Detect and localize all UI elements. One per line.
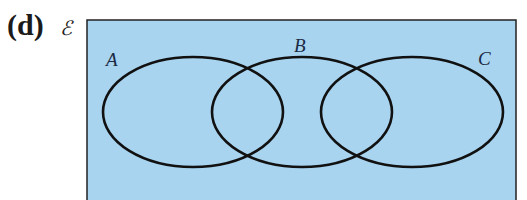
- venn-diagram: A B C: [0, 0, 527, 200]
- set-b-label: B: [294, 35, 306, 56]
- set-c-label: C: [478, 48, 491, 69]
- set-a-label: A: [104, 49, 118, 70]
